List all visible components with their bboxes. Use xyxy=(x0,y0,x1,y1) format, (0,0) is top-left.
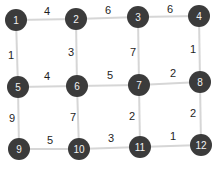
edge-weight-label: 4 xyxy=(44,70,50,82)
graph-node-2: 2 xyxy=(65,8,87,30)
edge-weight-label: 7 xyxy=(70,111,76,123)
node-label: 12 xyxy=(195,140,207,151)
edge-weight-label: 1 xyxy=(170,130,176,142)
edge-weight-label: 9 xyxy=(9,112,15,124)
edge-weight-label: 2 xyxy=(129,110,135,122)
graph-node-9: 9 xyxy=(8,138,30,160)
graph-node-4: 4 xyxy=(188,5,210,27)
edge-weight-label: 3 xyxy=(68,46,74,58)
graph-node-7: 7 xyxy=(128,74,150,96)
edge-weight-label: 7 xyxy=(130,46,136,58)
edge-weights-layer: 46613714529722531 xyxy=(8,3,196,146)
node-label: 9 xyxy=(16,144,22,155)
node-label: 8 xyxy=(197,77,203,88)
node-label: 5 xyxy=(15,82,21,93)
node-label: 6 xyxy=(74,81,80,92)
edge-weight-label: 1 xyxy=(190,43,196,55)
graph-node-11: 11 xyxy=(129,136,151,158)
graph-node-6: 6 xyxy=(66,75,88,97)
node-label: 4 xyxy=(196,11,202,22)
edge-weight-label: 2 xyxy=(190,107,196,119)
graph-node-10: 10 xyxy=(68,138,90,160)
edge-weight-label: 5 xyxy=(47,134,53,146)
graph-node-5: 5 xyxy=(7,76,29,98)
edge-weight-label: 1 xyxy=(8,49,14,61)
edge-weight-label: 3 xyxy=(108,132,114,144)
graph-node-12: 12 xyxy=(190,134,212,156)
node-label: 3 xyxy=(135,12,141,23)
edge-weight-label: 6 xyxy=(105,4,111,16)
edge-weight-label: 4 xyxy=(44,5,50,17)
node-label: 11 xyxy=(135,142,146,153)
node-label: 7 xyxy=(136,80,142,91)
graph-canvas: 46613714529722531 123456789101112 xyxy=(0,0,218,170)
graph-node-1: 1 xyxy=(5,9,27,31)
graph-node-3: 3 xyxy=(127,6,149,28)
edge-weight-label: 6 xyxy=(167,3,173,15)
edge-weight-label: 5 xyxy=(107,69,113,81)
node-label: 1 xyxy=(13,15,19,26)
node-label: 2 xyxy=(73,14,79,25)
edge-weight-label: 2 xyxy=(170,67,176,79)
node-label: 10 xyxy=(73,144,85,155)
graph-node-8: 8 xyxy=(189,71,211,93)
